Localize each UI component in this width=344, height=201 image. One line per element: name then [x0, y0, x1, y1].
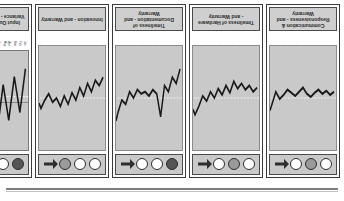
status-light-red[interactable]: [89, 159, 101, 171]
status-light-amber[interactable]: [74, 159, 86, 171]
scorecard-group-primary: · · · · · · Communication & Responsivene…: [35, 4, 340, 178]
tick-label: May: [2, 41, 5, 47]
tick-label: ·: [78, 41, 79, 44]
status-light-group: [0, 159, 24, 171]
status-light-green[interactable]: [136, 159, 148, 171]
status-light-amber[interactable]: [228, 159, 240, 171]
status-bar: [192, 154, 260, 175]
panel-caption-text: Communication & Responsiveness - and War…: [277, 10, 330, 27]
status-light-green[interactable]: [213, 159, 225, 171]
status-light-green[interactable]: [59, 159, 71, 171]
tick-label: Feb: [18, 41, 21, 46]
status-light-group: [136, 159, 178, 171]
tick-label: ·: [142, 41, 143, 44]
panel-caption-text: Input Output Margin Variance - and Warra…: [0, 13, 24, 25]
left-arrow-icon: [197, 159, 213, 171]
scorecard-group-secondary: Jan Feb Mar Apr May Jun Jul Aug Sep Oct …: [0, 4, 32, 178]
plot-svg: [116, 46, 182, 150]
tick-label: ·: [257, 41, 258, 44]
panel-caption: Timeliness of Documentation - and Warran…: [115, 7, 183, 31]
tick-label: ·: [117, 41, 118, 44]
caption-line-1: Innovation - and Warranty: [41, 16, 102, 22]
tick-label: ·: [194, 41, 195, 44]
plot-svg: [270, 46, 336, 150]
tick-label: ·: [219, 41, 220, 44]
series-line: [39, 77, 103, 108]
x-axis-ticks: · · · · · ·: [192, 34, 260, 45]
panel-caption: Communication & Responsiveness - and War…: [269, 7, 337, 31]
footer-divider-shadow: [6, 191, 338, 192]
panel-caption: Input Output Margin Variance - and Warra…: [0, 7, 29, 31]
left-arrow-icon: [43, 159, 59, 171]
tick-label: ·: [245, 41, 246, 44]
status-light-group: [290, 159, 332, 171]
panel-timeliness-of-documentation[interactable]: · · · · · · Timeliness of Documentation …: [112, 4, 186, 178]
tick-label: ·: [271, 41, 272, 44]
status-light-red[interactable]: [243, 159, 255, 171]
status-light-amber[interactable]: [305, 159, 317, 171]
trend-chart-timeliness-of-hardware: · · · · · ·: [192, 34, 260, 151]
x-axis-ticks: · · · · · ·: [269, 34, 337, 45]
panel-caption: Innovation - and Warranty: [38, 7, 106, 31]
tick-label: ·: [65, 41, 66, 44]
x-axis-ticks: Jan Feb Mar Apr May Jun Jul Aug Sep Oct …: [0, 34, 29, 50]
tick-label: ·: [180, 41, 181, 44]
tick-label: ·: [168, 41, 169, 44]
status-bar: [269, 154, 337, 175]
scorecard-strip: · · · · · · Communication & Responsivene…: [4, 4, 340, 178]
panel-innovation[interactable]: · · · · · · Innovation - and Warranty: [35, 4, 109, 178]
tick-label: ·: [284, 41, 285, 44]
series-line: [116, 69, 180, 121]
tick-label: ·: [155, 41, 156, 44]
status-light-red[interactable]: [320, 159, 332, 171]
status-light-amber[interactable]: [151, 159, 163, 171]
tick-label: ·: [296, 41, 297, 44]
tick-label: Apr: [7, 41, 10, 46]
status-bar: [38, 154, 106, 175]
status-light-green[interactable]: [290, 159, 302, 171]
status-bar: [0, 154, 29, 175]
left-arrow-icon: [120, 159, 136, 171]
tick-label: Jan: [23, 41, 26, 46]
status-light-amber[interactable]: [0, 159, 9, 171]
left-arrow-icon: [274, 159, 290, 171]
plot-area: [269, 45, 337, 151]
panel-caption: Timeliness of Hardware - and Warranty: [192, 7, 260, 31]
trend-chart-communication-responsiveness: · · · · · ·: [269, 34, 337, 151]
status-light-group: [213, 159, 255, 171]
x-axis-ticks: · · · · · ·: [38, 34, 106, 45]
tick-label: ·: [91, 41, 92, 44]
panel-caption-text: Timeliness of Hardware - and Warranty: [198, 13, 254, 25]
tick-label: Mar: [13, 41, 16, 46]
footer-divider: [6, 188, 338, 190]
trend-chart-input-output-margin-variance: Jan Feb Mar Apr May Jun Jul Aug Sep Oct …: [0, 34, 29, 151]
x-axis-ticks: · · · · · ·: [115, 34, 183, 45]
tick-label: ·: [232, 41, 233, 44]
panel-communication-responsiveness[interactable]: · · · · · · Communication & Responsivene…: [266, 4, 340, 178]
tick-label: ·: [322, 41, 323, 44]
trend-chart-timeliness-of-documentation: · · · · · ·: [115, 34, 183, 151]
plot-svg: [39, 46, 105, 150]
scorecard-rotator: · · · · · · Communication & Responsivene…: [0, 0, 344, 182]
tick-label: ·: [53, 41, 54, 44]
plot-area: [38, 45, 106, 151]
panel-timeliness-of-hardware[interactable]: · · · · · · Timeliness of Hardware - and…: [189, 4, 263, 178]
panel-input-output-margin-variance[interactable]: Jan Feb Mar Apr May Jun Jul Aug Sep Oct …: [0, 4, 32, 178]
status-light-red[interactable]: [12, 159, 24, 171]
status-light-group: [59, 159, 101, 171]
tick-label: ·: [309, 41, 310, 44]
tick-label: ·: [207, 41, 208, 44]
series-line: [270, 88, 334, 111]
status-light-red[interactable]: [166, 159, 178, 171]
series-line: [0, 69, 25, 134]
tick-label: ·: [334, 41, 335, 44]
status-bar: [115, 154, 183, 175]
plot-area: [115, 45, 183, 151]
panel-caption-text: Innovation - and Warranty: [41, 16, 102, 22]
plot-svg: [0, 51, 28, 150]
panel-caption-text: Timeliness of Documentation - and Warran…: [124, 10, 174, 27]
tick-label: ·: [40, 41, 41, 44]
tick-label: ·: [103, 41, 104, 44]
plot-area: [0, 50, 29, 151]
plot-svg: [193, 46, 259, 150]
